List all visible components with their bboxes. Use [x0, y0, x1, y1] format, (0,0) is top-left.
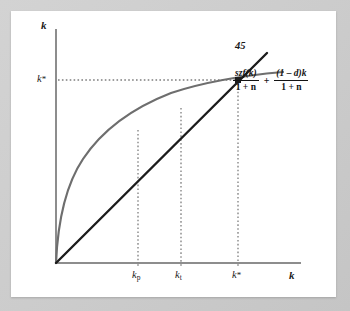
equation-plus-operator: + — [264, 75, 270, 86]
equation-term-2: (1 – d)k 1 + n — [274, 68, 308, 93]
figure-frame: k k 45 k* kp kt k* szf(k) 1 + n + (1 – d… — [0, 0, 350, 311]
figure-panel: k k 45 k* kp kt k* szf(k) 1 + n + (1 – d… — [11, 11, 336, 297]
production-function-curve — [56, 72, 283, 263]
x-tick-label-k-p: kp — [132, 269, 140, 282]
y-axis-label: k — [41, 19, 47, 31]
equation-term-1-denominator: 1 + n — [234, 81, 258, 93]
y-tick-label-k-star: k* — [37, 73, 46, 84]
x-axis-label: k — [289, 269, 295, 281]
equation-term-2-numerator: (1 – d)k — [274, 68, 308, 80]
equation-annotation: szf(k) 1 + n + (1 – d)k 1 + n — [233, 68, 308, 93]
equation-term-1-numerator: szf(k) — [233, 68, 259, 80]
forty-five-degree-label: 45 — [235, 40, 246, 51]
plot-canvas — [11, 11, 336, 297]
x-tick-label-k-t: kt — [175, 269, 182, 282]
equation-term-1: szf(k) 1 + n — [233, 68, 259, 93]
equation-term-2-denominator: 1 + n — [279, 81, 303, 93]
x-tick-label-k-star: k* — [232, 269, 241, 280]
